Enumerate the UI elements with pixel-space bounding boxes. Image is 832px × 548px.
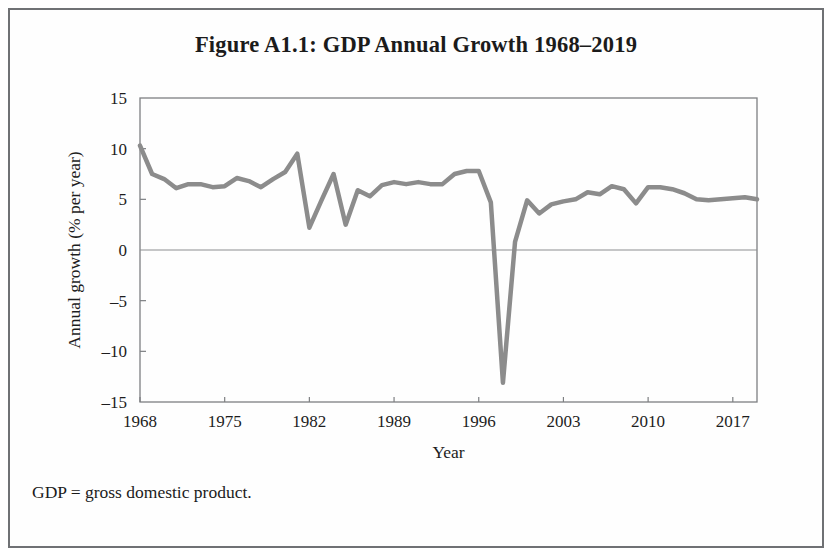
x-axis-tick-label: 2003 — [546, 412, 580, 431]
y-axis-title: Annual growth (% per year) — [64, 151, 84, 348]
x-axis-tick-label: 2017 — [716, 412, 751, 431]
x-axis-tick-label: 1968 — [123, 412, 157, 431]
y-axis-tick-label: –15 — [101, 393, 128, 412]
y-axis-tick-label: –5 — [109, 292, 127, 311]
x-axis-tick-label: 1996 — [462, 412, 496, 431]
x-axis-tick-label: 2010 — [631, 412, 665, 431]
y-axis-tick-label: 10 — [110, 140, 127, 159]
figure-frame: Figure A1.1: GDP Annual Growth 1968–2019… — [8, 8, 824, 548]
y-axis-tick-label: 0 — [119, 241, 128, 260]
y-axis-tick-label: –10 — [101, 342, 128, 361]
y-axis-tick-label: 5 — [119, 190, 128, 209]
gdp-growth-line-chart: 151050–5–10–1519681975198219891996200320… — [10, 10, 826, 480]
figure-note: GDP = gross domestic product. — [32, 482, 252, 503]
x-axis-tick-label: 1982 — [292, 412, 326, 431]
chart-plot-container: 151050–5–10–1519681975198219891996200320… — [10, 10, 826, 480]
x-axis-tick-label: 1975 — [208, 412, 242, 431]
x-axis-title: Year — [432, 442, 464, 462]
x-axis-tick-label: 1989 — [377, 412, 411, 431]
y-axis-tick-label: 15 — [110, 89, 127, 108]
gdp-growth-series-line — [140, 146, 757, 383]
